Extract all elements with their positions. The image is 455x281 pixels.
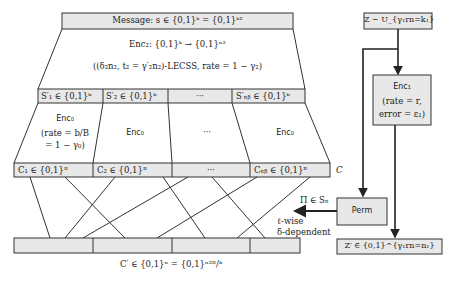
perm-arrow-top-label: Π ∈ Sₙ xyxy=(300,196,329,205)
permutation-line xyxy=(163,177,205,238)
enc0-cell-ellipsis: ··· xyxy=(172,128,242,137)
perm-arrow-line2: δ-dependent xyxy=(277,228,331,237)
s-cell-1: S′₁ ∈ {0,1}ᵇ xyxy=(41,92,92,101)
perm-label: Perm xyxy=(337,207,387,215)
perm-arrow-line1: ℓ-wise xyxy=(277,217,303,226)
s-cell-2: S′₂ ∈ {0,1}ᵇ xyxy=(106,92,157,101)
c-cell-ellipsis: ··· xyxy=(172,166,250,175)
enc0-cell-1-line2: = 1 − γ₀) xyxy=(30,141,100,150)
s-cell-ellipsis: ··· xyxy=(168,92,232,101)
c-prime-label: C′ ∈ {0,1}ⁿ = {0,1}ⁿ²ᴮ/ᵇ xyxy=(120,260,222,269)
c-cell-1: C₁ ∈ {0,1}ᴮ xyxy=(18,166,68,175)
enc0-cell-1-line1: (rate = b/B xyxy=(30,129,100,138)
enc2-title: Enc₂: {0,1}ᵏ → {0,1}ⁿ² xyxy=(62,40,293,49)
z-label: Z ∼ U_{γ₁rn=k₁} xyxy=(364,16,432,24)
enc2-left-edge xyxy=(38,29,62,89)
s-cell-nb: S′ₙᵦ ∈ {0,1}ᵇ xyxy=(236,92,290,101)
enc1-line1: (rate = r, xyxy=(373,97,431,106)
enc2-subtitle: ((δ₂n₂, t₂ = γ′₂n₂)-LECSS, rate = 1 − γ₂… xyxy=(50,62,305,71)
permutation-line xyxy=(30,177,50,238)
c-cell-2: C₂ ∈ {0,1}ᴮ xyxy=(97,166,147,175)
permutation-line xyxy=(65,177,115,238)
enc1-title: Enc₁ xyxy=(373,83,431,91)
permutation-line xyxy=(212,177,265,238)
c-cell-nb: Cₙᵦ ∈ {0,1}ᴮ xyxy=(254,166,307,175)
enc0-cell-nb-title: Enc₀ xyxy=(250,129,320,137)
permutation-line xyxy=(65,177,125,238)
z-prime-label: Z′ ∈ {0,1}^{γ₁rn=n₁} xyxy=(337,242,442,250)
message-label: Message: s ∈ {0,1}ᵏ = {0,1}ᵏ² xyxy=(62,16,293,25)
enc0-cell-2-title: Enc₀ xyxy=(100,129,170,137)
permutation-lines xyxy=(30,177,310,238)
enc0-cell-1-title: Enc₀ xyxy=(30,115,100,123)
enc2-right-edge xyxy=(293,29,305,89)
c-prime-row xyxy=(14,238,300,253)
c-side-label: C xyxy=(336,166,343,175)
enc1-line2: error = ε₁) xyxy=(373,110,431,119)
